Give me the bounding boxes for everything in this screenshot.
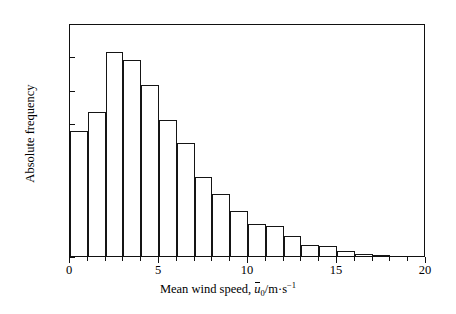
histogram-bar (248, 224, 266, 256)
x-axis-minor-tick (283, 257, 284, 261)
x-axis-title: Mean wind speed, u0/m·s−1 (0, 283, 456, 296)
x-axis-exponent: −1 (287, 280, 296, 290)
x-axis-minor-tick (140, 257, 141, 261)
x-axis-minor-tick (389, 257, 390, 261)
histogram-bar (177, 143, 195, 256)
histogram-bar (230, 211, 248, 256)
x-axis-tick-label: 15 (316, 264, 356, 277)
histogram-bar (301, 245, 319, 256)
x-axis-minor-tick (211, 257, 212, 261)
x-axis-minor-tick (300, 257, 301, 261)
x-axis-tick-label: 0 (49, 264, 89, 277)
x-axis-tick-label: 10 (227, 264, 267, 277)
histogram-bar (284, 236, 302, 256)
u-bar-symbol: u (254, 283, 260, 296)
histogram-bar (195, 177, 213, 256)
x-axis-minor-tick (407, 257, 408, 261)
histogram-bar (212, 194, 230, 256)
histogram-bar (88, 112, 106, 256)
histogram-bar (123, 60, 141, 256)
bars-layer (70, 25, 424, 256)
x-axis-minor-tick (265, 257, 266, 261)
x-axis-tick-label: 5 (138, 264, 178, 277)
histogram-bar (373, 255, 391, 256)
histogram-bar (355, 254, 373, 256)
x-axis-minor-tick (105, 257, 106, 261)
x-axis-minor-tick (194, 257, 195, 261)
x-axis-units: /m·s (265, 282, 287, 296)
x-axis-minor-tick (87, 257, 88, 261)
x-axis-minor-tick (229, 257, 230, 261)
u-subscript: 0 (261, 288, 265, 298)
x-axis-minor-tick (354, 257, 355, 261)
x-axis-minor-tick (372, 257, 373, 261)
plot-area (69, 24, 425, 257)
x-axis-tick-label: 20 (405, 264, 445, 277)
x-axis-title-prefix: Mean wind speed, (160, 282, 254, 296)
histogram-bar (266, 226, 284, 256)
histogram-bar (159, 120, 177, 256)
histogram-bar (106, 52, 124, 256)
histogram-bar (141, 85, 159, 256)
histogram-figure: Absolute frequency 020040060080010001200… (0, 0, 456, 314)
histogram-bar (319, 246, 337, 256)
x-axis-minor-tick (122, 257, 123, 261)
y-axis-title: Absolute frequency (23, 34, 38, 234)
histogram-bar (337, 251, 355, 256)
histogram-bar (70, 131, 88, 256)
x-axis-minor-tick (176, 257, 177, 261)
x-axis-minor-tick (318, 257, 319, 261)
